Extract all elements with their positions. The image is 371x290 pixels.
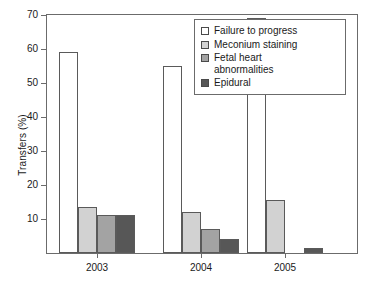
legend-label-4: Epidural <box>214 77 251 89</box>
bar-2003-series-2 <box>78 207 97 253</box>
y-tick-40 <box>41 117 47 118</box>
y-tick-label-50: 50 <box>8 78 38 88</box>
bar-2004-series-4 <box>220 239 239 253</box>
legend-swatch-icon-1 <box>201 27 209 35</box>
bar-2004-series-3 <box>201 229 220 253</box>
legend-swatch-icon-4 <box>201 79 209 87</box>
x-tick-2005 <box>285 253 286 258</box>
legend-item-4: Epidural <box>201 77 338 89</box>
legend-label-3: Fetal heart abnormalities <box>214 52 273 75</box>
plot-area: Failure to progressMeconium stainingFeta… <box>46 14 358 254</box>
bar-2005-series-2 <box>266 200 285 253</box>
y-tick-label-30: 30 <box>8 146 38 156</box>
y-tick-label-40: 40 <box>8 112 38 122</box>
legend-item-2: Meconium staining <box>201 39 338 51</box>
y-tick-50 <box>41 83 47 84</box>
x-tick-label-2004: 2004 <box>171 262 231 273</box>
bar-2003-series-3 <box>97 215 116 253</box>
legend-label-1: Failure to progress <box>214 25 297 37</box>
legend-label-2: Meconium staining <box>214 39 297 51</box>
bar-2005-series-4 <box>304 248 323 253</box>
legend-swatch-icon-3 <box>201 54 209 62</box>
bar-2003-series-4 <box>116 215 135 253</box>
y-tick-label-20: 20 <box>8 180 38 190</box>
x-tick-label-2005: 2005 <box>255 262 315 273</box>
legend-item-3: Fetal heart abnormalities <box>201 52 338 75</box>
x-tick-2003 <box>97 253 98 258</box>
y-tick-60 <box>41 49 47 50</box>
bar-2004-series-2 <box>182 212 201 253</box>
legend-swatch-icon-2 <box>201 41 209 49</box>
bar-2004-series-1 <box>163 66 182 253</box>
x-tick-2004 <box>201 253 202 258</box>
y-tick-label-10: 10 <box>8 214 38 224</box>
y-tick-30 <box>41 151 47 152</box>
x-tick-label-2003: 2003 <box>67 262 127 273</box>
y-tick-label-70: 70 <box>8 10 38 20</box>
y-tick-label-60: 60 <box>8 44 38 54</box>
bar-chart-figure: Transfers (%) Failure to progressMeconiu… <box>0 0 371 290</box>
y-tick-70 <box>41 15 47 16</box>
y-tick-10 <box>41 219 47 220</box>
bar-2003-series-1 <box>59 52 78 253</box>
chart-legend: Failure to progressMeconium stainingFeta… <box>194 19 346 95</box>
legend-item-1: Failure to progress <box>201 25 338 37</box>
y-tick-20 <box>41 185 47 186</box>
